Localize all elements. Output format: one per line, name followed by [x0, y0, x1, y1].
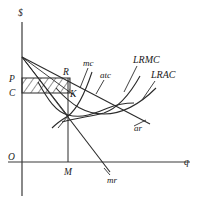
ar-label: ar: [134, 123, 143, 133]
profit-rectangle: [22, 78, 70, 93]
lrac-label: LRAC: [150, 69, 176, 80]
lrmc-label: LRMC: [132, 54, 160, 65]
cost-label-c: C: [9, 88, 16, 98]
point-label-r: R: [62, 67, 69, 77]
economics-diagram: $ q O P C R K M mc atc LRMC LRAC ar mr: [0, 0, 201, 206]
y-axis-label: $: [18, 8, 23, 18]
atc-leader: [96, 80, 104, 94]
axis-group: [8, 22, 190, 196]
origin-label: O: [8, 152, 15, 162]
point-label-k: K: [69, 89, 77, 99]
atc-label: atc: [100, 70, 111, 80]
price-label-p: P: [8, 74, 15, 84]
x-axis-label: q: [184, 157, 189, 167]
lrmc-leader: [124, 66, 137, 92]
mr-label: mr: [107, 175, 117, 185]
quantity-label-m: M: [63, 167, 73, 177]
mc-label: mc: [83, 58, 94, 68]
